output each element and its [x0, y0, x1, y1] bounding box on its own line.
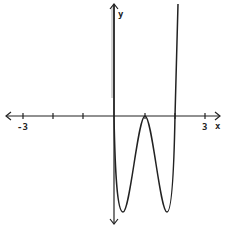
- function-curve: [114, 4, 178, 212]
- tick-label-pos3: 3: [202, 122, 207, 132]
- x-axis-label: x: [215, 121, 221, 131]
- x-axis: [6, 112, 220, 120]
- tick-label-neg3: -3: [17, 122, 28, 132]
- graph-canvas: y x -3 3: [0, 0, 228, 227]
- y-axis-label: y: [118, 9, 124, 19]
